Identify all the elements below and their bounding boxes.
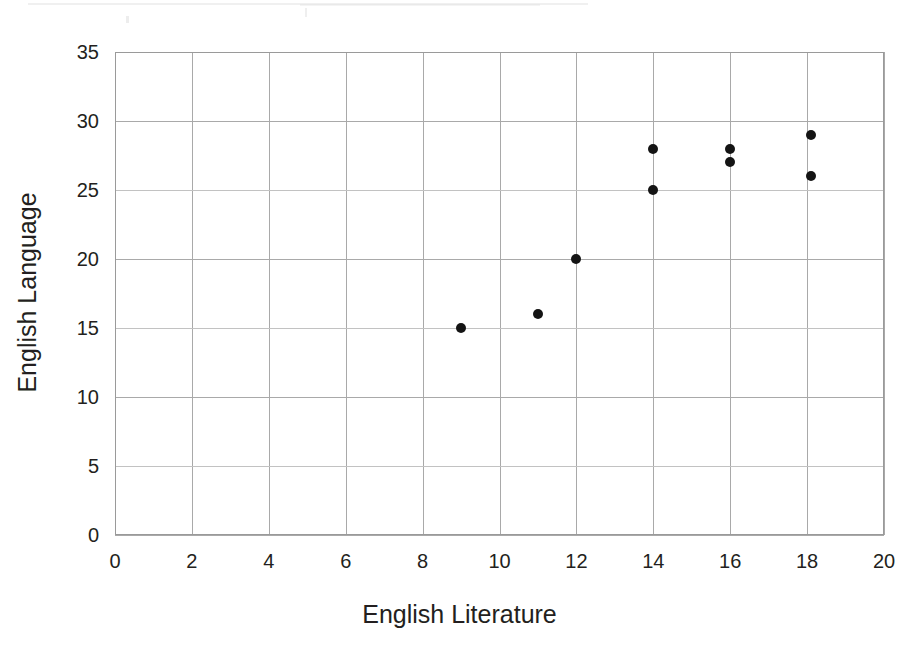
gridline-horizontal	[115, 190, 884, 191]
y-tick-label: 5	[88, 456, 99, 476]
gridline-horizontal	[115, 466, 884, 467]
gridline-horizontal	[115, 328, 884, 329]
scan-artifact	[300, 4, 540, 6]
scan-artifact	[28, 3, 588, 5]
data-point	[533, 309, 543, 319]
x-tick-label: 2	[186, 551, 197, 571]
scatter-plot-figure: 02468101214161820 05101520253035 English…	[0, 0, 919, 658]
data-point	[725, 144, 735, 154]
scan-artifact	[126, 16, 129, 23]
x-tick-label: 18	[796, 551, 818, 571]
y-tick-label: 35	[77, 42, 99, 62]
axis-frame-top	[115, 52, 884, 53]
y-tick-label: 25	[77, 180, 99, 200]
y-tick-label: 0	[88, 525, 99, 545]
x-tick-label: 6	[340, 551, 351, 571]
axis-frame-right	[883, 52, 884, 535]
plot-area	[115, 52, 884, 535]
x-tick-label: 12	[565, 551, 587, 571]
gridline-vertical	[807, 52, 808, 535]
gridline-vertical	[576, 52, 577, 535]
data-point	[648, 185, 658, 195]
x-tick-label: 0	[109, 551, 120, 571]
gridline-horizontal	[115, 535, 884, 536]
y-tick-label: 10	[77, 387, 99, 407]
x-tick-label: 4	[263, 551, 274, 571]
axis-frame-left	[115, 52, 116, 535]
scan-artifact	[305, 8, 307, 17]
data-point	[648, 144, 658, 154]
gridline-horizontal	[115, 121, 884, 122]
y-axis-title: English Language	[13, 83, 42, 503]
x-tick-label: 10	[488, 551, 510, 571]
gridline-vertical	[346, 52, 347, 535]
gridline-vertical	[192, 52, 193, 535]
gridline-vertical	[500, 52, 501, 535]
x-tick-label: 8	[417, 551, 428, 571]
gridline-vertical	[653, 52, 654, 535]
gridline-vertical	[269, 52, 270, 535]
data-point	[806, 171, 816, 181]
x-tick-label: 14	[642, 551, 664, 571]
gridline-vertical	[884, 52, 885, 535]
x-tick-label: 20	[873, 551, 895, 571]
y-tick-label: 20	[77, 249, 99, 269]
gridline-vertical	[730, 52, 731, 535]
y-tick-label: 15	[77, 318, 99, 338]
y-tick-label: 30	[77, 111, 99, 131]
x-axis-title: English Literature	[0, 600, 919, 629]
data-point	[571, 254, 581, 264]
data-point	[806, 130, 816, 140]
x-tick-label: 16	[719, 551, 741, 571]
data-point	[456, 323, 466, 333]
gridline-vertical	[423, 52, 424, 535]
data-point	[725, 157, 735, 167]
gridline-horizontal	[115, 259, 884, 260]
axis-frame-bottom	[115, 534, 884, 535]
gridline-horizontal	[115, 397, 884, 398]
